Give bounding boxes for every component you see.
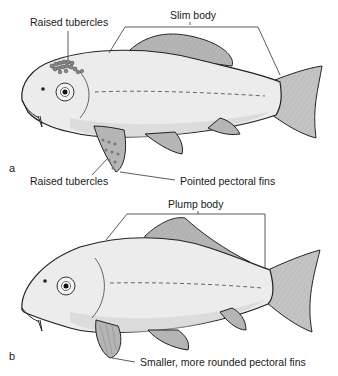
leader-pointed-pectoral-fins xyxy=(120,172,175,180)
fish-b-pectoral-fin xyxy=(96,320,121,358)
leader-rounded-pectoral-fins xyxy=(112,358,135,362)
label-slim-body: Slim body xyxy=(170,9,217,21)
label-raised-tubercles-head: Raised tubercles xyxy=(30,16,108,28)
label-raised-tubercles-fin: Raised tubercles xyxy=(30,175,108,187)
leader-raised-tubercles-fin xyxy=(92,158,108,175)
label-rounded-pectoral-fins: Smaller, more rounded pectoral fins xyxy=(140,356,306,368)
fish-b-female xyxy=(22,218,320,358)
fish-a-male xyxy=(22,34,322,172)
panel-label-a: a xyxy=(9,162,16,174)
panel-label-b: b xyxy=(9,350,15,362)
fish-comparison-diagram: Slim body Raised tubercles a Raised tube… xyxy=(0,0,338,376)
fish-a-pelvic-fin xyxy=(145,132,183,154)
fish-a-pectoral-fin xyxy=(94,126,126,172)
label-pointed-pectoral-fins: Pointed pectoral fins xyxy=(180,175,275,187)
fish-b-pelvic-fin xyxy=(148,330,189,350)
label-plump-body: Plump body xyxy=(168,198,224,210)
